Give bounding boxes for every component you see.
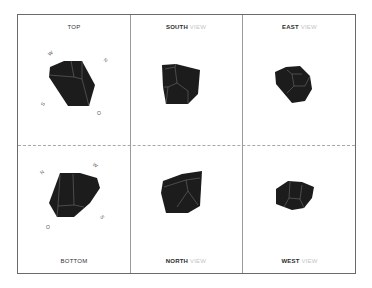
gem-north-view	[130, 145, 242, 275]
panel-west-view: WEST VIEW	[242, 145, 357, 275]
panel-label-north: NORTH VIEW	[130, 258, 242, 264]
panel-top: TOP W N S O	[18, 15, 130, 145]
panel-north-view: NORTH VIEW	[130, 145, 242, 275]
panel-south-view: SOUTH VIEW	[130, 15, 242, 145]
gem-west-view	[242, 145, 357, 275]
gem-south-view	[130, 15, 242, 145]
panel-bottom: N W S O BOTTOM	[18, 145, 130, 275]
panel-label-west: WEST VIEW	[242, 258, 357, 264]
gem-east-view	[242, 15, 357, 145]
panel-east-view: EAST VIEW	[242, 15, 357, 145]
gem-bottom-view	[18, 145, 130, 275]
gem-top-view	[18, 15, 130, 145]
views-frame: TOP W N S O SOUTH VIEW EAST VIEW	[17, 14, 356, 274]
panel-label-bottom: BOTTOM	[18, 258, 130, 264]
